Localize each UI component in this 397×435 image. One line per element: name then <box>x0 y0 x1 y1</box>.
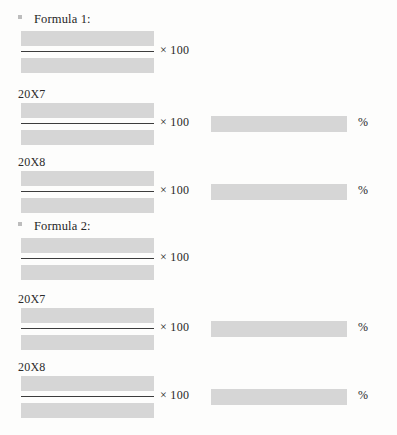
year-label: 20X8 <box>18 360 45 375</box>
fraction <box>21 307 154 351</box>
redacted-numerator <box>21 103 154 118</box>
fraction <box>21 170 154 214</box>
formula-row: × 100 <box>0 30 397 74</box>
redacted-denominator <box>21 335 154 350</box>
multiplier-label: × 100 <box>160 250 189 265</box>
fraction-rule <box>21 258 154 259</box>
fraction-rule <box>21 328 154 329</box>
formula-row: × 100 % <box>0 170 397 214</box>
multiplier-label: × 100 <box>160 320 189 335</box>
fraction <box>21 102 154 146</box>
multiplier-label: × 100 <box>160 43 189 58</box>
formula-row: × 100 % <box>0 102 397 146</box>
redacted-result-value <box>211 321 347 337</box>
percent-label: % <box>358 320 368 335</box>
fraction <box>21 237 154 281</box>
fraction-rule <box>21 51 154 52</box>
document-page: Formula 1: × 100 20X7 × 100 % 20X8 × 100… <box>0 0 397 435</box>
redacted-denominator <box>21 58 154 73</box>
year-label: 20X8 <box>18 155 45 170</box>
section-heading-formula-1: Formula 1: <box>18 12 91 27</box>
redacted-numerator <box>21 31 154 46</box>
redacted-numerator <box>21 238 154 253</box>
redacted-denominator <box>21 130 154 145</box>
redacted-numerator <box>21 171 154 186</box>
percent-label: % <box>358 115 368 130</box>
square-bullet-icon <box>18 222 22 226</box>
redacted-denominator <box>21 403 154 418</box>
square-bullet-icon <box>18 15 22 19</box>
redacted-numerator <box>21 376 154 391</box>
multiplier-label: × 100 <box>160 388 189 403</box>
redacted-numerator <box>21 308 154 323</box>
formula-row: × 100 % <box>0 375 397 419</box>
fraction-rule <box>21 191 154 192</box>
redacted-result-value <box>211 116 347 132</box>
year-label: 20X7 <box>18 292 45 307</box>
redacted-denominator <box>21 198 154 213</box>
multiplier-label: × 100 <box>160 115 189 130</box>
redacted-denominator <box>21 265 154 280</box>
fraction-rule <box>21 396 154 397</box>
year-label: 20X7 <box>18 87 45 102</box>
formula-row: × 100 % <box>0 307 397 351</box>
percent-label: % <box>358 183 368 198</box>
fraction-rule <box>21 123 154 124</box>
redacted-result-value <box>211 389 347 405</box>
formula-row: × 100 <box>0 237 397 281</box>
section-title: Formula 1: <box>34 12 91 27</box>
section-title: Formula 2: <box>34 219 91 234</box>
section-heading-formula-2: Formula 2: <box>18 219 91 234</box>
fraction <box>21 375 154 419</box>
fraction <box>21 30 154 74</box>
multiplier-label: × 100 <box>160 183 189 198</box>
percent-label: % <box>358 388 368 403</box>
redacted-result-value <box>211 184 347 200</box>
